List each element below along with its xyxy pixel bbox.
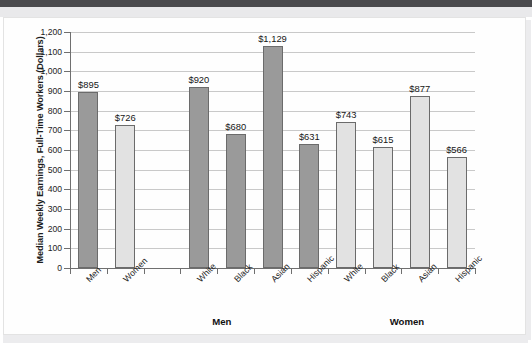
bar [336, 122, 356, 268]
y-tick-label: 1,000 [18, 66, 62, 76]
x-tick-mark [107, 269, 108, 274]
x-tick-mark [70, 269, 71, 274]
x-tick-mark [475, 269, 476, 274]
y-tick-label: 300 [18, 204, 62, 214]
x-tick-mark [217, 269, 218, 274]
bar-value-label: $726 [101, 112, 149, 123]
y-tick-label-slot: 500 [14, 165, 62, 175]
x-tick-mark [254, 269, 255, 274]
card-shadow-bottom [3, 335, 528, 343]
y-tick-label-slot: 300 [14, 204, 62, 214]
bar [115, 125, 135, 268]
y-tick-label-slot: 1,100 [14, 47, 62, 57]
y-tick-label-slot: 1,200 [14, 27, 62, 37]
y-tick-label: 100 [18, 243, 62, 253]
y-tick-label: 1,100 [18, 47, 62, 57]
card-shadow-right [526, 20, 531, 340]
x-tick-mark [144, 269, 145, 274]
bar-value-label: $615 [359, 134, 407, 145]
x-tick-mark [180, 269, 181, 274]
bar-value-label: $743 [322, 109, 370, 120]
y-tick-label-slot: 0 [14, 263, 62, 273]
bar-value-label: $1,129 [249, 33, 297, 44]
bar [78, 92, 98, 268]
bar [299, 144, 319, 268]
bar [189, 87, 209, 268]
x-tick-mark [291, 269, 292, 274]
y-tick-label-slot: 800 [14, 106, 62, 116]
x-tick-mark [328, 269, 329, 274]
y-tick-label: 200 [18, 224, 62, 234]
scan-artifact-top-dark [0, 0, 532, 7]
y-tick-label-slot: 100 [14, 243, 62, 253]
bar [226, 134, 246, 268]
y-tick-label-slot: 400 [14, 184, 62, 194]
y-tick-label: 700 [18, 125, 62, 135]
group-label: Men [182, 316, 262, 327]
plot-area: $895$726$920$680$1,129$631$743$615$877$5… [70, 32, 475, 268]
chart-figure: Median Weekly Earnings, Full-Time Worker… [0, 0, 532, 353]
bar [410, 96, 430, 268]
y-tick-label: 600 [18, 145, 62, 155]
bar-value-label: $895 [64, 79, 112, 90]
x-tick-mark [365, 269, 366, 274]
x-tick-mark [438, 269, 439, 274]
y-tick-label-slot: 1,000 [14, 66, 62, 76]
y-tick-label: 400 [18, 184, 62, 194]
y-tick-label-slot: 700 [14, 125, 62, 135]
y-axis-line [70, 32, 71, 269]
y-tick-label: 0 [18, 263, 62, 273]
bar-value-label: $680 [212, 121, 260, 132]
y-tick-label-slot: 200 [14, 224, 62, 234]
bar-value-label: $920 [175, 74, 223, 85]
bar-value-label: $877 [396, 83, 444, 94]
x-tick-mark [401, 269, 402, 274]
group-label: Women [367, 316, 447, 327]
bar [263, 46, 283, 268]
y-tick-label-slot: 900 [14, 86, 62, 96]
bar-value-label: $631 [285, 131, 333, 142]
scan-artifact-top-light [0, 7, 532, 17]
y-tick-label: 1,200 [18, 27, 62, 37]
y-tick-label: 900 [18, 86, 62, 96]
y-tick-label: 800 [18, 106, 62, 116]
y-tick-label-slot: 600 [14, 145, 62, 155]
bar [447, 157, 467, 268]
y-tick-label: 500 [18, 165, 62, 175]
bar-value-label: $566 [433, 144, 481, 155]
bar [373, 147, 393, 268]
